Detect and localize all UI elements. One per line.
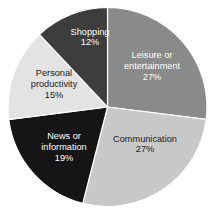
pie-chart-canvas: Leisure orentertainment27%Communication2… bbox=[0, 0, 217, 214]
pie-slice-leisure-or-entertainment[interactable] bbox=[108, 8, 208, 120]
pie-slice-layer bbox=[8, 8, 207, 207]
pie-chart: Leisure orentertainment27%Communication2… bbox=[0, 0, 217, 214]
